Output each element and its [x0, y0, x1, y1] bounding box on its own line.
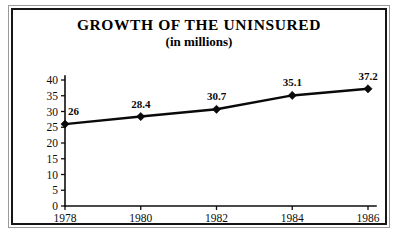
data-point-value-label: 37.2: [358, 70, 378, 82]
data-point-marker: [212, 105, 220, 113]
data-point-value-label: 26: [68, 105, 80, 117]
figure-inner-border: GROWTH OF THE UNINSURED (in millions) 05…: [11, 8, 387, 225]
y-tick-label: 15: [47, 153, 59, 165]
x-tick-label: 1984: [281, 212, 304, 224]
data-point-value-label: 35.1: [283, 76, 302, 88]
data-point-marker: [288, 91, 296, 99]
data-point-labels: 2628.430.735.137.2: [68, 70, 378, 117]
y-tick-label: 10: [47, 169, 59, 181]
y-tick-label: 0: [52, 200, 58, 212]
y-axis: 0510152025303540: [47, 74, 66, 212]
y-tick-label: 25: [47, 121, 59, 133]
line-chart-svg: 0510152025303540 19781980198219841986 26…: [13, 10, 395, 229]
y-tick-label: 20: [47, 137, 59, 149]
x-tick-label: 1982: [205, 212, 228, 224]
data-point-value-label: 28.4: [131, 98, 151, 110]
x-tick-label: 1986: [357, 212, 380, 224]
data-point-marker: [364, 85, 372, 93]
data-point-value-label: 30.7: [207, 90, 227, 102]
x-axis: 19781980198219841986: [54, 206, 380, 224]
plot-area: 0510152025303540 19781980198219841986 26…: [13, 10, 395, 229]
x-tick-label: 1980: [129, 212, 152, 224]
y-tick-label: 40: [47, 74, 59, 86]
figure-frame: GROWTH OF THE UNINSURED (in millions) 05…: [8, 5, 390, 228]
y-tick-label: 5: [52, 184, 58, 196]
y-tick-label: 30: [47, 106, 59, 118]
x-tick-label: 1978: [54, 212, 77, 224]
data-point-marker: [137, 112, 145, 120]
y-tick-label: 35: [47, 90, 59, 102]
